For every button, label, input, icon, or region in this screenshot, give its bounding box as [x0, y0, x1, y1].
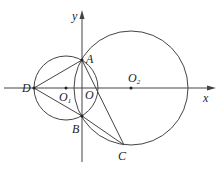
label-a: A	[85, 52, 94, 66]
point-b	[81, 115, 84, 118]
segment-db	[34, 88, 82, 116]
label-o: O	[85, 88, 94, 102]
label-c: C	[118, 149, 127, 163]
label-y-axis: y	[71, 9, 78, 23]
geometry-figure: y x A B C D O O1 O2	[0, 0, 220, 174]
segment-bc	[82, 116, 124, 145]
y-axis-arrow-icon	[80, 10, 85, 19]
label-d: D	[21, 81, 31, 95]
point-a	[81, 59, 84, 62]
label-b: B	[72, 122, 80, 136]
x-axis	[4, 86, 216, 91]
x-axis-arrow-icon	[207, 86, 216, 91]
point-d	[33, 87, 36, 90]
segment-ac	[82, 60, 124, 145]
label-o2: O2	[128, 71, 141, 86]
y-axis	[80, 10, 85, 162]
label-x-axis: x	[202, 91, 209, 105]
segment-da	[34, 60, 82, 88]
point-o2	[130, 87, 133, 90]
label-o1: O1	[59, 90, 71, 105]
